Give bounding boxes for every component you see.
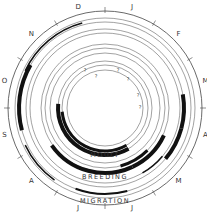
month-label: A [29, 177, 34, 185]
uncertain-marker: ? [127, 76, 130, 82]
uncertain-marker: ? [84, 67, 87, 73]
uncertain-marker: ? [137, 92, 140, 98]
month-label: A [203, 131, 207, 139]
annual-cycle-diagram: JFMAMJJASOND??????MOULTBREEDINGMIGRATION [0, 0, 207, 215]
month-label: N [29, 30, 34, 38]
month-label: O [2, 77, 8, 85]
uncertain-marker: ? [139, 104, 142, 110]
month-label: J [130, 204, 133, 212]
breeding-label: BREEDING [82, 173, 128, 181]
ring [50, 53, 160, 163]
month-label: J [130, 3, 133, 11]
activity-bar [25, 145, 54, 180]
month-label: M [202, 77, 207, 85]
activity-bar [19, 65, 31, 130]
month-label: D [75, 3, 80, 11]
activity-bar [76, 189, 128, 194]
ring [26, 29, 184, 187]
ring [15, 18, 195, 198]
ring [30, 33, 180, 183]
activity-bar [166, 128, 182, 158]
uncertain-marker: ? [117, 67, 120, 73]
uncertain-marker: ? [95, 73, 98, 79]
month-label: M [176, 177, 182, 185]
migration-label: MIGRATION [80, 197, 130, 205]
ring [67, 70, 143, 146]
month-label: S [2, 131, 7, 139]
month-label: F [177, 30, 181, 38]
month-label: J [76, 204, 79, 212]
moult-label: MOULT [90, 151, 120, 159]
activity-bar [62, 112, 126, 151]
activity-bar [181, 94, 184, 128]
